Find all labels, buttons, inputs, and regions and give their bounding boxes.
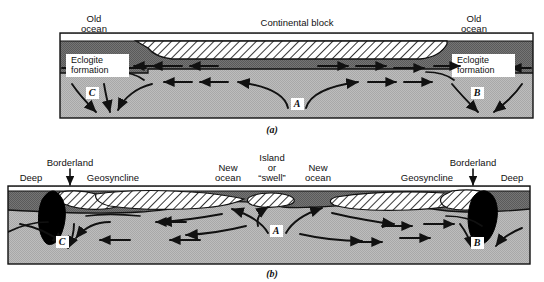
label-deep-left: Deep bbox=[20, 172, 43, 183]
geological-cross-section-figure: Old ocean Continental block Old ocean bbox=[0, 0, 544, 282]
point-label-a-b: A bbox=[272, 225, 280, 236]
eclogite-formation-left-box: Eclogite formation bbox=[66, 54, 129, 77]
label-island-line3: “swell” bbox=[258, 172, 285, 183]
eclogite-left-line2: formation bbox=[71, 65, 109, 75]
label-geosyncline-left: Geosyncline bbox=[87, 172, 139, 183]
label-geosyncline-right: Geosyncline bbox=[401, 172, 453, 183]
panel-b-section bbox=[8, 186, 530, 264]
eclogite-left-line1: Eclogite bbox=[71, 55, 103, 65]
ocean-water-a bbox=[60, 34, 533, 41]
panel-a-caption: (a) bbox=[266, 124, 278, 136]
point-label-b-b: B bbox=[473, 237, 481, 248]
point-label-c-b: C bbox=[59, 236, 66, 247]
label-borderland-left: Borderland bbox=[47, 157, 93, 168]
label-continental-block: Continental block bbox=[261, 17, 334, 28]
island-swell-block bbox=[248, 193, 295, 207]
panel-b-caption: (b) bbox=[266, 268, 278, 280]
continental-block-a bbox=[136, 41, 447, 59]
label-new-ocean-right-line2: ocean bbox=[305, 172, 331, 183]
point-label-b-a: B bbox=[473, 87, 481, 98]
label-borderland-right: Borderland bbox=[450, 157, 496, 168]
ocean-water-b bbox=[8, 187, 530, 191]
panel-b: Deep Borderland Geosyncline New ocean Is… bbox=[8, 152, 530, 280]
eclogite-right-line2: formation bbox=[457, 65, 495, 75]
label-new-ocean-left-line2: ocean bbox=[215, 172, 241, 183]
point-label-c-a: C bbox=[89, 87, 96, 98]
label-deep-right: Deep bbox=[501, 172, 524, 183]
point-label-a-a: A bbox=[293, 98, 301, 109]
eclogite-right-line1: Eclogite bbox=[457, 55, 489, 65]
eclogite-formation-right-box: Eclogite formation bbox=[452, 54, 515, 77]
